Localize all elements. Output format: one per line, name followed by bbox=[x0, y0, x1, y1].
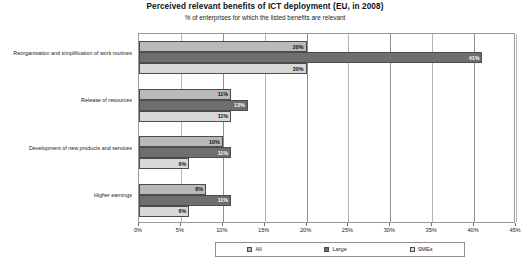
bar-row: 20% bbox=[139, 41, 516, 52]
bar-smes-3[interactable]: 6% bbox=[139, 206, 189, 217]
x-axis-tick-40 bbox=[473, 223, 474, 226]
x-axis-tick-5 bbox=[180, 223, 181, 226]
chart-title: Perceived relevant benefits of ICT deplo… bbox=[0, 2, 530, 12]
bar-smes-1[interactable]: 11% bbox=[139, 111, 231, 122]
x-axis-tick-label-0: 0% bbox=[134, 227, 142, 234]
x-axis-tick-label-20: 20% bbox=[300, 227, 311, 234]
bar-row: 11% bbox=[139, 89, 516, 100]
bar-value-label: 6% bbox=[178, 208, 186, 214]
x-axis-tick-label-25: 25% bbox=[342, 227, 353, 234]
y-axis-label-2: Development of new products and services bbox=[4, 145, 132, 152]
bar-value-label: 11% bbox=[218, 150, 229, 156]
plot-area: 20%41%20%11%13%11%10%11%6%8%11%6% bbox=[138, 33, 515, 223]
bar-all-0[interactable]: 20% bbox=[139, 41, 307, 52]
chart-container: Perceived relevant benefits of ICT deplo… bbox=[0, 0, 530, 268]
x-axis-tick-15 bbox=[264, 223, 265, 226]
legend-item-smes[interactable]: SMEs bbox=[410, 246, 433, 253]
x-axis-tick-label-35: 35% bbox=[426, 227, 437, 234]
legend-swatch-smes bbox=[410, 247, 415, 252]
bar-row: 6% bbox=[139, 158, 516, 169]
bar-all-2[interactable]: 10% bbox=[139, 136, 223, 147]
x-axis-tick-label-15: 15% bbox=[258, 227, 269, 234]
bar-value-label: 20% bbox=[293, 44, 304, 50]
bar-value-label: 13% bbox=[234, 102, 245, 108]
bar-row: 10% bbox=[139, 136, 516, 147]
bar-all-1[interactable]: 11% bbox=[139, 89, 231, 100]
x-axis-tick-label-45: 45% bbox=[509, 227, 520, 234]
x-axis-tick-30 bbox=[389, 223, 390, 226]
bar-row: 11% bbox=[139, 195, 516, 206]
bar-row: 6% bbox=[139, 206, 516, 217]
bar-row: 8% bbox=[139, 184, 516, 195]
legend-swatch-all bbox=[247, 247, 252, 252]
legend-item-all[interactable]: All bbox=[247, 246, 261, 253]
y-axis-label-0: Reorganisation and simplification of wor… bbox=[4, 50, 132, 57]
bar-all-3[interactable]: 8% bbox=[139, 184, 206, 195]
title-block: Perceived relevant benefits of ICT deplo… bbox=[0, 2, 530, 22]
bar-value-label: 11% bbox=[218, 91, 229, 97]
bar-value-label: 20% bbox=[293, 66, 304, 72]
x-axis-tick-0 bbox=[138, 223, 139, 226]
x-axis-tick-10 bbox=[222, 223, 223, 226]
bar-row: 41% bbox=[139, 52, 516, 63]
x-axis-tick-label-30: 30% bbox=[384, 227, 395, 234]
bar-value-label: 6% bbox=[178, 161, 186, 167]
x-axis-tick-45 bbox=[515, 223, 516, 226]
bar-large-1[interactable]: 13% bbox=[139, 100, 248, 111]
legend-swatch-large bbox=[324, 247, 329, 252]
bar-value-label: 8% bbox=[195, 186, 203, 192]
chart-legend: AllLargeSMEs bbox=[215, 242, 465, 257]
bar-large-0[interactable]: 41% bbox=[139, 52, 482, 63]
gridline-45 bbox=[516, 34, 517, 222]
y-axis-category-labels: Reorganisation and simplification of wor… bbox=[2, 33, 136, 223]
bar-row: 11% bbox=[139, 111, 516, 122]
legend-item-large[interactable]: Large bbox=[324, 246, 346, 253]
x-axis-tick-label-10: 10% bbox=[216, 227, 227, 234]
bars-layer: 20%41%20%11%13%11%10%11%6%8%11%6% bbox=[139, 34, 514, 222]
bar-row: 20% bbox=[139, 63, 516, 74]
x-axis: 0%5%10%15%20%25%30%35%40%45% bbox=[138, 223, 515, 239]
bar-row: 13% bbox=[139, 100, 516, 111]
bar-large-2[interactable]: 11% bbox=[139, 147, 231, 158]
legend-label-large: Large bbox=[332, 246, 346, 253]
legend-label-smes: SMEs bbox=[418, 246, 433, 253]
bar-row: 11% bbox=[139, 147, 516, 158]
y-axis-label-3: Higher earnings bbox=[4, 192, 132, 199]
bar-large-3[interactable]: 11% bbox=[139, 195, 231, 206]
y-axis-label-1: Release of resources bbox=[4, 97, 132, 104]
bar-value-label: 41% bbox=[469, 55, 480, 61]
chart-subtitle: % of enterprises for which the listed be… bbox=[0, 13, 530, 22]
bar-smes-2[interactable]: 6% bbox=[139, 158, 189, 169]
x-axis-tick-25 bbox=[347, 223, 348, 226]
x-axis-tick-label-5: 5% bbox=[176, 227, 184, 234]
bar-value-label: 10% bbox=[209, 139, 220, 145]
x-axis-tick-35 bbox=[431, 223, 432, 226]
x-axis-tick-label-40: 40% bbox=[468, 227, 479, 234]
x-axis-tick-20 bbox=[306, 223, 307, 226]
bar-smes-0[interactable]: 20% bbox=[139, 63, 307, 74]
bar-value-label: 11% bbox=[218, 113, 229, 119]
bar-value-label: 11% bbox=[218, 197, 229, 203]
legend-label-all: All bbox=[255, 246, 261, 253]
